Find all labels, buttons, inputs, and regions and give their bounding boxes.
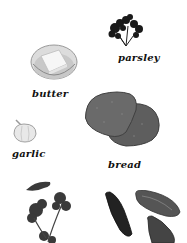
garlic-image <box>10 116 40 144</box>
butter-image <box>29 42 79 84</box>
mussels-image <box>102 190 187 243</box>
bread-label: bread <box>108 159 141 170</box>
parsley-label: parsley <box>118 52 160 63</box>
butter-label: butter <box>32 88 68 99</box>
ingredients-illustration: parsley butter bread garlic <box>0 0 187 243</box>
garlic-label: garlic <box>12 148 46 159</box>
cilantro-image <box>22 178 78 243</box>
parsley-image <box>106 14 146 48</box>
bread-image <box>82 88 164 150</box>
